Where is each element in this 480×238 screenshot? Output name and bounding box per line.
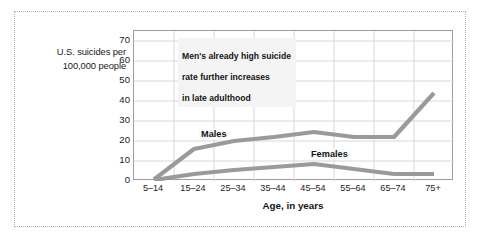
- y-tick-label: 40: [108, 94, 130, 105]
- chart-figure: U.S. suicides per 100,000 people 0102030…: [0, 0, 480, 238]
- x-tick-label: 75+: [425, 183, 440, 193]
- x-tick-label: 5–14: [143, 183, 163, 193]
- y-tick-label: 10: [108, 154, 130, 165]
- x-axis-title: Age, in years: [133, 200, 453, 211]
- y-tick-label: 70: [108, 34, 130, 45]
- y-tick-label: 30: [108, 114, 130, 125]
- x-tick-label: 65–74: [380, 183, 405, 193]
- annotation-callout: Men's already high suicide rate further …: [178, 38, 296, 107]
- x-tick-label: 15–24: [180, 183, 205, 193]
- annotation-line-1: Men's already high suicide: [182, 51, 291, 61]
- y-tick-label: 20: [108, 134, 130, 145]
- annotation-line-2: rate further increases: [182, 72, 270, 82]
- y-tick-label: 60: [108, 54, 130, 65]
- y-tick-label: 0: [108, 174, 130, 185]
- x-tick-label: 25–34: [220, 183, 245, 193]
- series-label-females: Females: [309, 149, 350, 159]
- x-tick-label: 45–54: [300, 183, 325, 193]
- series-label-males: Males: [199, 129, 229, 139]
- x-axis-tick-labels: 5–1415–2425–3435–4445–5455–6465–7475+: [133, 183, 453, 197]
- x-tick-label: 55–64: [340, 183, 365, 193]
- y-tick-label: 50: [108, 74, 130, 85]
- y-axis-tick-labels: 010203040506070: [105, 30, 130, 180]
- x-tick-label: 35–44: [260, 183, 285, 193]
- annotation-line-3: in late adulthood: [182, 93, 251, 103]
